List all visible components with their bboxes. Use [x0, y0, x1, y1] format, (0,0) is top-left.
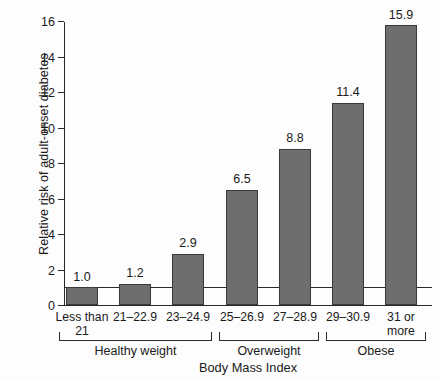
group-label-healthy-weight: Healthy weight [59, 344, 212, 358]
group-bracket-healthy-weight [59, 332, 212, 341]
group-bracket-overweight [219, 332, 319, 341]
bar-27-28.9 [279, 149, 311, 305]
bar-31-or-more [385, 25, 417, 305]
group-label-overweight: Overweight [219, 344, 319, 358]
y-tick-label: 16 [15, 15, 55, 29]
y-tick-label: 2 [15, 264, 55, 278]
y-tick-label: 14 [15, 51, 55, 65]
bar-25-26.9 [226, 190, 258, 305]
y-axis-tick-labels: 0 2 4 6 8 10 12 14 16 [0, 0, 55, 380]
bar-less-than-21 [66, 287, 98, 305]
y-tick-label: 10 [15, 122, 55, 136]
bar-29-30.9 [332, 103, 364, 305]
y-tick-label: 0 [15, 299, 55, 313]
y-tick-label: 4 [15, 228, 55, 242]
bar-value-label: 1.2 [108, 266, 162, 280]
bar-chart-figure: Relative risk of adult-onset diabetes 0 … [0, 0, 439, 380]
y-tick-label: 6 [15, 193, 55, 207]
x-axis-title: Body Mass Index [64, 360, 432, 375]
bar-21-22.9 [119, 284, 151, 305]
x-tick-label-23-24.9: 23–24.9 [157, 310, 219, 324]
x-axis-line [64, 305, 432, 306]
x-tick-label-line: 23–24.9 [157, 310, 219, 324]
bar-23-24.9 [172, 254, 204, 306]
bar-value-label: 6.5 [215, 172, 269, 186]
bar-value-label: 15.9 [374, 8, 428, 22]
x-tick-label-line: 31 or [370, 310, 432, 324]
bar-value-label: 1.0 [55, 270, 109, 284]
bar-value-label: 2.9 [161, 236, 215, 250]
y-tick-label: 8 [15, 157, 55, 171]
group-bracket-obese [326, 332, 426, 341]
y-axis-line [64, 22, 65, 306]
bar-value-label: 11.4 [321, 85, 375, 99]
group-label-obese: Obese [326, 344, 426, 358]
bar-value-label: 8.8 [268, 131, 322, 145]
y-tick-label: 12 [15, 86, 55, 100]
